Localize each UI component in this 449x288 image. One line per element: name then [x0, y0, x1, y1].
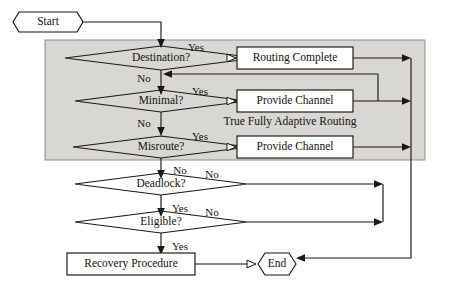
- edge-label-misroute-yes: Yes: [192, 130, 208, 142]
- edge-label-deadlock-no: No: [205, 168, 219, 180]
- node-recovery-procedure-label: Recovery Procedure: [84, 257, 178, 270]
- edge-label-minimal-no: No: [137, 117, 151, 129]
- region-label: True Fully Adaptive Routing: [224, 115, 357, 128]
- node-destination-label: Destination?: [132, 51, 190, 63]
- node-provide-channel-2-label: Provide Channel: [257, 140, 334, 152]
- edge-eligible-no: No: [205, 206, 383, 226]
- arrowhead-end-from-bus: [296, 254, 305, 262]
- node-deadlock-label: Deadlock?: [136, 177, 185, 189]
- arrowhead-deadlock-no: [374, 180, 383, 188]
- node-provide-channel-1[interactable]: Provide Channel: [237, 90, 353, 112]
- edge-recovery-to-end: [195, 260, 256, 268]
- node-minimal-label: Minimal?: [139, 94, 184, 106]
- node-end-label: End: [268, 257, 287, 269]
- arrowhead-end-from-recovery: [247, 260, 256, 268]
- node-routing-complete[interactable]: Routing Complete: [237, 47, 353, 69]
- node-deadlock[interactable]: Deadlock?: [75, 173, 247, 195]
- edge-label-eligible-no: No: [205, 206, 219, 218]
- edge-label-eligible-yes: Yes: [172, 240, 188, 252]
- edge-eligible-yes: Yes: [157, 233, 188, 255]
- node-eligible-label: Eligible?: [140, 215, 182, 228]
- edge-label-deadlock-yes: Yes: [172, 202, 188, 214]
- node-eligible[interactable]: Eligible?: [75, 211, 247, 233]
- node-end[interactable]: End: [258, 253, 296, 275]
- edge-label-destination-no: No: [137, 72, 151, 84]
- node-start[interactable]: Start: [13, 12, 83, 32]
- node-routing-complete-label: Routing Complete: [253, 51, 338, 64]
- node-provide-channel-1-label: Provide Channel: [257, 94, 334, 106]
- node-recovery-procedure[interactable]: Recovery Procedure: [67, 253, 195, 275]
- node-misroute-label: Misroute?: [138, 140, 185, 152]
- edge-label-destination-yes: Yes: [188, 41, 204, 53]
- node-provide-channel-2[interactable]: Provide Channel: [237, 136, 353, 158]
- flowchart-svg: Start Destination? Yes No: [0, 0, 449, 288]
- edge-deadlock-no: No: [205, 168, 383, 188]
- edge-label-misroute-no: No: [173, 164, 187, 176]
- arrowhead-eligible-no: [374, 218, 383, 226]
- flowchart-canvas: Start Destination? Yes No: [0, 0, 449, 288]
- node-start-label: Start: [37, 15, 60, 27]
- edge-label-minimal-yes: Yes: [192, 85, 208, 97]
